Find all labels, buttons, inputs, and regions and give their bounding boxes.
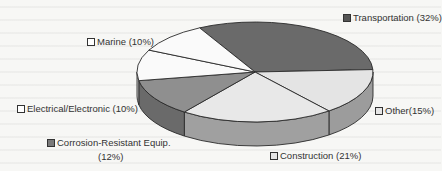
swatch-marine	[87, 38, 95, 46]
swatch-construction	[270, 152, 278, 160]
label-corrosion: Corrosion-Resistant Equip.	[47, 137, 171, 148]
label-text: Other(15%)	[385, 105, 434, 116]
label-transportation: Transportation (32%)	[343, 12, 442, 23]
label-corrosion-pct: (12%)	[98, 151, 123, 162]
label-text: Corrosion-Resistant Equip.	[57, 137, 171, 148]
label-other: Other(15%)	[375, 105, 434, 116]
label-text: Marine (10%)	[97, 36, 154, 47]
label-text: Transportation (32%)	[353, 12, 442, 23]
swatch-other	[375, 107, 383, 115]
label-electrical: Electrical/Electronic (10%)	[17, 103, 138, 114]
label-text: Electrical/Electronic (10%)	[27, 103, 138, 114]
swatch-corrosion	[47, 139, 55, 147]
swatch-transportation	[343, 14, 351, 22]
label-marine: Marine (10%)	[87, 36, 154, 47]
pie-3d	[137, 22, 373, 146]
swatch-electrical	[17, 105, 25, 113]
label-text: Construction (21%)	[280, 150, 361, 161]
label-construction: Construction (21%)	[270, 150, 361, 161]
